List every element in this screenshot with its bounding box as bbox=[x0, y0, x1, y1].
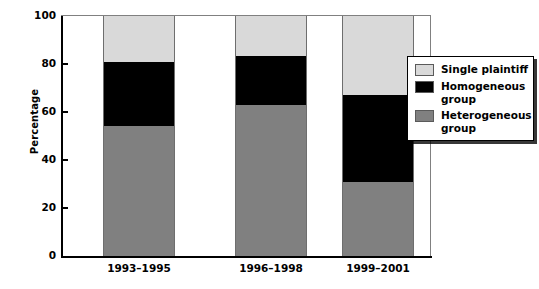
legend-label: Heterogeneous group bbox=[441, 109, 529, 134]
legend-item: Single plaintiff bbox=[415, 63, 528, 76]
x-axis-line bbox=[61, 256, 432, 258]
bar-1993–1995 bbox=[103, 16, 175, 256]
bar-segment-heterogeneous-group bbox=[343, 182, 413, 256]
plot-area bbox=[62, 16, 431, 256]
x-tick-label: 1993–1995 bbox=[84, 262, 194, 274]
y-tick-label: 20 bbox=[20, 202, 56, 213]
legend-swatch bbox=[415, 81, 434, 93]
y-tick-label: 0 bbox=[20, 250, 56, 261]
x-tick-label: 1996–1998 bbox=[216, 262, 326, 274]
bar-segment-single-plaintiff bbox=[104, 16, 174, 62]
bar-1996–1998 bbox=[235, 16, 307, 256]
y-tick-label: 100 bbox=[20, 10, 56, 21]
y-tick-label: 80 bbox=[20, 58, 56, 69]
legend-item: Heterogeneous group bbox=[415, 109, 528, 134]
bar-segment-single-plaintiff bbox=[236, 16, 306, 56]
legend-swatch bbox=[415, 64, 434, 76]
bar-segment-heterogeneous-group bbox=[236, 105, 306, 256]
bar-segment-homogeneous-group bbox=[343, 95, 413, 181]
bar-segment-homogeneous-group bbox=[236, 56, 306, 105]
y-tick-label: 40 bbox=[20, 154, 56, 165]
x-tick-label: 1999–2001 bbox=[323, 262, 433, 274]
stacked-bar-chart: Percentage 100806040200 1993–19951996–19… bbox=[0, 0, 539, 289]
legend-item: Homogeneous group bbox=[415, 80, 528, 105]
y-tick-label: 60 bbox=[20, 106, 56, 117]
bar-segment-homogeneous-group bbox=[104, 62, 174, 127]
legend-label: Single plaintiff bbox=[441, 63, 528, 76]
legend-label: Homogeneous group bbox=[441, 80, 528, 105]
chart-legend: Single plaintiffHomogeneous groupHeterog… bbox=[407, 56, 534, 141]
legend-swatch bbox=[415, 110, 434, 122]
bar-segment-heterogeneous-group bbox=[104, 126, 174, 256]
bar-1999–2001 bbox=[342, 16, 414, 256]
bar-segment-single-plaintiff bbox=[343, 16, 413, 95]
